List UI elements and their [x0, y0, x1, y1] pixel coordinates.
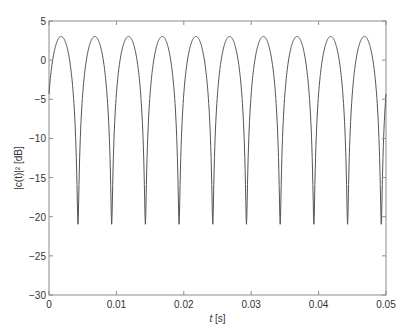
- y-tick-label: −15: [29, 173, 46, 184]
- x-tick-label: 0.01: [107, 299, 127, 310]
- x-tick-label: 0.02: [174, 299, 194, 310]
- x-tick-label: 0: [46, 299, 52, 310]
- y-axis-label: |c(t)|² [dB]: [13, 146, 24, 190]
- y-tick-label: −5: [35, 94, 47, 105]
- y-tick-label: −25: [29, 251, 46, 262]
- chart: 00.010.020.030.040.05−30−25−20−15−10−505…: [0, 0, 411, 330]
- tick-labels: 00.010.020.030.040.05−30−25−20−15−10−505: [29, 16, 396, 310]
- x-tick-label: 0.04: [309, 299, 329, 310]
- y-tick-label: −30: [29, 290, 46, 301]
- x-tick-label: 0.03: [241, 299, 261, 310]
- x-axis-label-unit: [s]: [212, 313, 226, 324]
- y-tick-label: −20: [29, 212, 46, 223]
- y-tick-label: 0: [40, 55, 46, 66]
- y-tick-label: 5: [40, 16, 46, 27]
- axis-ticks: [49, 21, 386, 295]
- plot-area: [49, 21, 386, 295]
- x-tick-label: 0.05: [376, 299, 396, 310]
- x-axis-label: t [s]: [209, 313, 225, 324]
- series-line: [49, 36, 386, 224]
- axes-frame: [49, 21, 386, 295]
- y-tick-label: −10: [29, 133, 46, 144]
